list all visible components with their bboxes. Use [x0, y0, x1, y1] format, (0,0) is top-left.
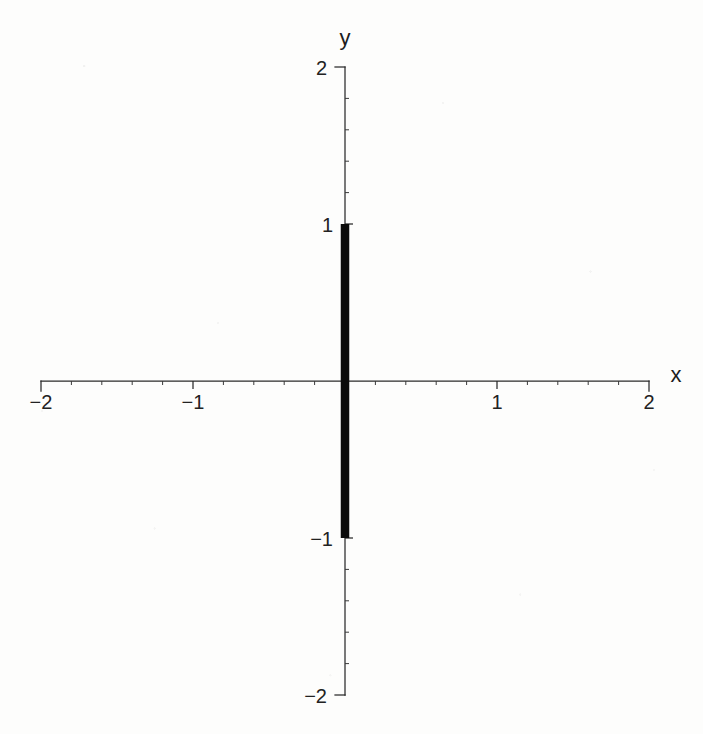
y-tick-label--1: −1 — [310, 528, 333, 550]
x-tick-label-1: 1 — [491, 391, 502, 413]
plot-canvas: −2 −1 1 2 2 1 −1 −2 x y — [0, 0, 703, 734]
x-tick-label--2: −2 — [30, 391, 53, 413]
x-tick-label-2: 2 — [643, 391, 654, 413]
cartesian-plot: −2 −1 1 2 2 1 −1 −2 x y — [0, 0, 703, 734]
y-tick-label-1: 1 — [322, 214, 333, 236]
axis-name-group: x y — [340, 25, 682, 387]
y-tick-label--2: −2 — [304, 685, 327, 707]
x-tick-label--1: −1 — [182, 391, 205, 413]
y-axis-label: y — [340, 25, 351, 50]
y-tick-label-2: 2 — [316, 57, 327, 79]
x-axis-label: x — [671, 362, 682, 387]
